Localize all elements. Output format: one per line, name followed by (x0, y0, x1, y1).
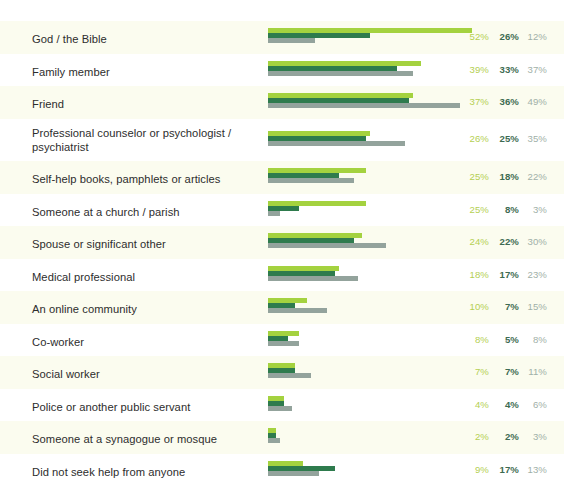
category-label: God / the Bible (32, 32, 262, 47)
value-series-1: 26% (463, 133, 489, 144)
bar-group (268, 461, 483, 476)
value-labels: 52%26%12% (463, 31, 559, 42)
value-labels: 8%5%8% (463, 334, 559, 345)
value-series-3: 22% (519, 171, 547, 182)
chart-row: Did not seek help from anyone9%17%13% (0, 454, 564, 487)
value-series-1: 2% (463, 431, 489, 442)
chart-row: Professional counselor or psychologist /… (0, 119, 564, 162)
value-labels: 39%33%37% (463, 64, 559, 75)
value-labels: 18%17%23% (463, 269, 559, 280)
category-label: Professional counselor or psychologist /… (32, 126, 262, 155)
value-series-2: 8% (489, 204, 519, 215)
bar-group (268, 61, 483, 76)
value-series-2: 2% (489, 431, 519, 442)
value-series-3: 30% (519, 236, 547, 247)
value-series-1: 25% (463, 171, 489, 182)
category-label: Friend (32, 97, 262, 112)
bar-series-3 (268, 141, 405, 146)
bar-series-3 (268, 211, 280, 216)
value-series-3: 49% (519, 96, 547, 107)
bar-series-3 (268, 103, 460, 108)
value-series-3: 37% (519, 64, 547, 75)
value-series-3: 13% (519, 464, 547, 475)
category-label: Social worker (32, 367, 262, 382)
horizontal-bar-chart: God / the Bible52%26%12%Family member39%… (0, 0, 564, 503)
category-label: Did not seek help from anyone (32, 465, 262, 480)
bar-series-3 (268, 373, 311, 378)
category-label: Police or another public servant (32, 400, 262, 415)
bar-group (268, 428, 483, 443)
bar-group (268, 201, 483, 216)
bar-group (268, 168, 483, 183)
bar-series-3 (268, 406, 292, 411)
value-series-1: 10% (463, 301, 489, 312)
value-series-2: 7% (489, 301, 519, 312)
bar-group (268, 28, 483, 43)
bar-series-3 (268, 471, 319, 476)
value-series-1: 24% (463, 236, 489, 247)
value-labels: 26%25%35% (463, 133, 559, 144)
value-series-2: 36% (489, 96, 519, 107)
bar-group (268, 363, 483, 378)
bar-group (268, 298, 483, 313)
bar-group (268, 396, 483, 411)
value-series-3: 15% (519, 301, 547, 312)
value-series-1: 7% (463, 366, 489, 377)
value-series-3: 23% (519, 269, 547, 280)
value-series-2: 17% (489, 464, 519, 475)
value-series-2: 25% (489, 133, 519, 144)
bar-series-3 (268, 178, 354, 183)
chart-row: Spouse or significant other24%22%30% (0, 226, 564, 259)
category-label: An online community (32, 302, 262, 317)
value-series-3: 11% (519, 366, 547, 377)
chart-row: God / the Bible52%26%12% (0, 21, 564, 54)
value-labels: 37%36%49% (463, 96, 559, 107)
chart-row: Self-help books, pamphlets or articles25… (0, 161, 564, 194)
bar-series-3 (268, 71, 413, 76)
chart-row: Friend37%36%49% (0, 86, 564, 119)
value-series-3: 3% (519, 431, 547, 442)
value-series-1: 8% (463, 334, 489, 345)
value-series-2: 4% (489, 399, 519, 410)
category-label: Family member (32, 65, 262, 80)
value-series-2: 22% (489, 236, 519, 247)
value-series-1: 25% (463, 204, 489, 215)
bar-group (268, 233, 483, 248)
value-series-1: 39% (463, 64, 489, 75)
value-labels: 24%22%30% (463, 236, 559, 247)
bar-series-3 (268, 276, 358, 281)
value-series-1: 18% (463, 269, 489, 280)
chart-row: Police or another public servant4%4%6% (0, 389, 564, 422)
value-series-1: 4% (463, 399, 489, 410)
value-labels: 25%8%3% (463, 204, 559, 215)
value-series-3: 6% (519, 399, 547, 410)
bar-series-3 (268, 38, 315, 43)
value-series-3: 12% (519, 31, 547, 42)
chart-row: Medical professional18%17%23% (0, 259, 564, 292)
chart-row: An online community10%7%15% (0, 291, 564, 324)
category-label: Someone at a church / parish (32, 205, 262, 220)
value-series-2: 26% (489, 31, 519, 42)
value-labels: 2%2%3% (463, 431, 559, 442)
chart-row: Family member39%33%37% (0, 54, 564, 87)
bar-series-3 (268, 341, 299, 346)
chart-row: Someone at a church / parish25%8%3% (0, 194, 564, 227)
value-series-3: 3% (519, 204, 547, 215)
bar-series-3 (268, 308, 327, 313)
value-series-3: 35% (519, 133, 547, 144)
bar-group (268, 131, 483, 146)
value-series-2: 18% (489, 171, 519, 182)
chart-row: Social worker7%7%11% (0, 356, 564, 389)
bar-group (268, 331, 483, 346)
value-series-2: 5% (489, 334, 519, 345)
bar-group (268, 266, 483, 281)
bar-series-3 (268, 243, 386, 248)
chart-row: Someone at a synagogue or mosque2%2%3% (0, 421, 564, 454)
value-series-1: 9% (463, 464, 489, 475)
category-label: Co-worker (32, 335, 262, 350)
category-label: Spouse or significant other (32, 237, 262, 252)
category-label: Self-help books, pamphlets or articles (32, 172, 262, 187)
value-labels: 9%17%13% (463, 464, 559, 475)
category-label: Medical professional (32, 270, 262, 285)
bar-series-3 (268, 438, 280, 443)
